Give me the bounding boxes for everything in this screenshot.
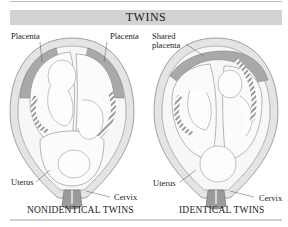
label-cervix-left: Cervix xyxy=(114,193,137,202)
label-uterus-left: Uterus xyxy=(11,178,34,187)
label-uterus-right: Uterus xyxy=(153,179,176,188)
bottom-rule xyxy=(10,219,282,221)
caption-identical: IDENTICAL TWINS xyxy=(179,205,265,215)
label-cervix-right: Cervix xyxy=(259,194,282,203)
fetus-head-4 xyxy=(218,70,242,98)
twins-illustration xyxy=(0,0,288,227)
fetus-head-3 xyxy=(200,146,236,182)
label-shared-placenta-2: placenta xyxy=(152,41,180,50)
label-placenta-left: Placenta xyxy=(11,32,40,41)
label-placenta-right: Placenta xyxy=(110,32,139,41)
fetus-head-2 xyxy=(58,150,90,178)
caption-nonidentical: NONIDENTICAL TWINS xyxy=(27,205,134,215)
